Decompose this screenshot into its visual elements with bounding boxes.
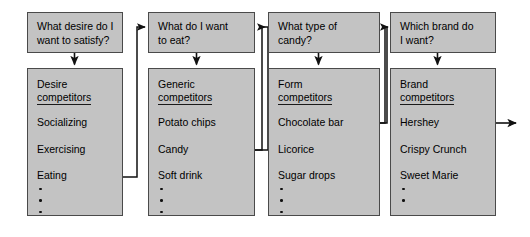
bullet-dot: [39, 188, 42, 191]
ellipsis-bullets-3: [278, 188, 371, 214]
bullet-dot: [280, 188, 283, 191]
list-item: Crispy Crunch: [400, 143, 487, 157]
list-item: Eating: [37, 169, 114, 183]
question-text-4: Which brand do I want?: [400, 20, 487, 47]
bullet-dot: [39, 199, 42, 202]
bullet-dot: [402, 199, 405, 202]
question-box-4: Which brand do I want?: [390, 12, 496, 53]
competitor-box-3: Form competitors Chocolate bar Licorice …: [268, 68, 380, 216]
list-item: Hershey: [400, 116, 487, 130]
bullet-dot: [280, 211, 283, 214]
connector-list1-to-question2: [122, 27, 145, 177]
bullet-dot: [160, 211, 163, 214]
bullet-dot: [160, 199, 163, 202]
list-item: Licorice: [278, 143, 371, 157]
list-item: Exercising: [37, 143, 114, 157]
question-text-3: What type of candy?: [278, 20, 371, 47]
competitor-header-1: Desire competitors: [37, 78, 91, 105]
bullet-dot: [160, 188, 163, 191]
connector-list3-to-question4: [380, 27, 388, 123]
question-box-1: What desire do I want to satisfy?: [27, 12, 123, 53]
competitor-header-4: Brand competitors: [400, 78, 454, 105]
list-item: Soft drink: [158, 169, 246, 183]
competitor-header-3: Form competitors: [278, 78, 332, 105]
bullet-dot: [280, 199, 283, 202]
connector-list2-to-question3: [255, 27, 268, 150]
competitor-box-4: Brand competitors Hershey Crispy Crunch …: [390, 68, 496, 216]
list-item: Candy: [158, 143, 246, 157]
competitor-box-2: Generic competitors Potato chips Candy S…: [148, 68, 255, 216]
question-text-2: What do I want to eat?: [158, 20, 246, 47]
ellipsis-bullets-2: [158, 188, 246, 214]
list-item: Sugar drops: [278, 169, 371, 183]
ellipsis-bullets-1: [37, 188, 114, 214]
competitor-header-2: Generic competitors: [158, 78, 212, 105]
diagram-canvas: What desire do I want to satisfy? Desire…: [0, 0, 530, 237]
list-item: Socializing: [37, 116, 114, 130]
question-text-1: What desire do I want to satisfy?: [37, 20, 114, 47]
ellipsis-bullets-4: [400, 188, 487, 202]
question-box-3: What type of candy?: [268, 12, 380, 53]
question-box-2: What do I want to eat?: [148, 12, 255, 53]
list-item: Potato chips: [158, 116, 246, 130]
list-item: Chocolate bar: [278, 116, 371, 130]
competitor-box-1: Desire competitors Socializing Exercisin…: [27, 68, 123, 216]
bullet-dot: [39, 211, 42, 214]
bullet-dot: [402, 188, 405, 191]
list-item: Sweet Marie: [400, 169, 487, 183]
